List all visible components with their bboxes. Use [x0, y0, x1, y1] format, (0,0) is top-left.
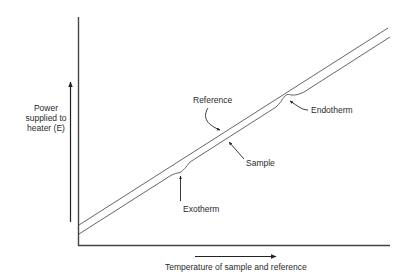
dsc-diagram: Reference Sample Exotherm Endotherm Powe…	[0, 0, 408, 276]
sample-curve	[79, 37, 390, 234]
y-axis-label: Power supplied to heater (E)	[25, 103, 66, 133]
reference-label: Reference	[193, 95, 232, 105]
exotherm-label: Exotherm	[183, 204, 219, 214]
sample-pointer-arrow-icon	[229, 142, 244, 159]
y-axis-label-line-1: Power	[34, 103, 58, 113]
sample-label: Sample	[246, 158, 275, 168]
reference-curve	[79, 28, 388, 225]
y-axis-label-line-3: heater (E)	[27, 123, 65, 133]
x-axis-label: Temperature of sample and reference	[165, 262, 307, 272]
reference-pointer-arrow-icon	[206, 108, 220, 130]
y-axis-label-line-2: supplied to	[25, 113, 66, 123]
endotherm-label: Endotherm	[311, 105, 353, 115]
endotherm-pointer-arrow-icon	[290, 101, 308, 110]
